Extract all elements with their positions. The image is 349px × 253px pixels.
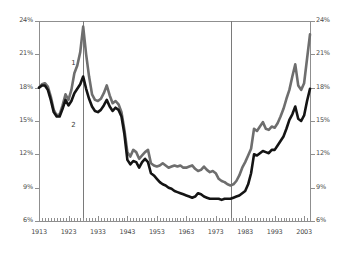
series-annotation-2: 2 [71, 121, 75, 129]
series-line-2 [39, 77, 310, 200]
chart-plot-area [0, 0, 349, 253]
series-line-1 [39, 27, 310, 186]
chart-container: 24%21%18%15%12%9%6% 24%21%18%15%12%9%6% … [0, 0, 349, 253]
series-annotation-1: 1 [71, 59, 75, 67]
